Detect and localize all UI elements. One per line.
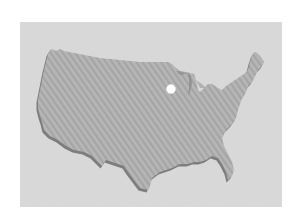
us-map [0, 0, 296, 214]
location-marker-icon[interactable] [167, 85, 176, 94]
map-stage [0, 0, 296, 214]
